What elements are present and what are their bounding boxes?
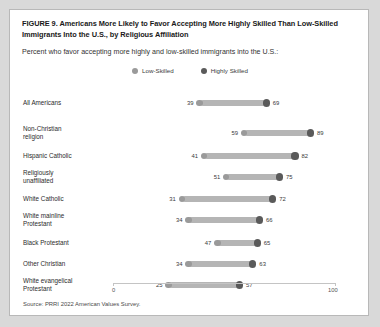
low-skilled-value: 59	[218, 130, 238, 136]
figure-subtitle: Percent who favor accepting more highly …	[22, 47, 358, 57]
low-skilled-dot	[185, 217, 191, 223]
axis-tick	[335, 283, 336, 286]
figure-header: FIGURE 9. Americans More Likely to Favor…	[22, 19, 358, 57]
dumbbell-connector	[182, 196, 273, 201]
figure-card: FIGURE 9. Americans More Likely to Favor…	[9, 9, 369, 316]
dumbbell-connector	[204, 153, 295, 158]
axis-tick-label: 100	[328, 287, 338, 293]
row-label: Hispanic Catholic	[23, 152, 105, 160]
chart-plot-area: All Americans3969Non-Christianreligion59…	[10, 86, 370, 286]
row-label: All Americans	[23, 99, 105, 107]
page-title: FIGURE 9. Americans More Likely to Favor…	[22, 19, 358, 40]
highly-skilled-value: 63	[259, 261, 266, 267]
axis-tick	[113, 283, 114, 286]
row-label: Religiouslyunaffiliated	[23, 169, 105, 184]
axis-tick-label: 0	[112, 287, 115, 293]
highly-skilled-value: 75	[286, 174, 293, 180]
dumbbell-track: 3466	[113, 211, 335, 231]
dumbbell-connector	[226, 174, 279, 179]
highly-skilled-value: 66	[266, 217, 273, 223]
dumbbell-connector	[200, 100, 267, 105]
chart-row: Black Protestant4765	[10, 234, 370, 254]
chart-row: All Americans3969	[10, 94, 370, 114]
x-axis: 0100	[113, 283, 335, 284]
dumbbell-track: 5175	[113, 168, 335, 188]
dumbbell-track: 4182	[113, 147, 335, 167]
chart-row: White Catholic3172	[10, 190, 370, 210]
low-skilled-value: 51	[200, 174, 220, 180]
low-skilled-dot	[196, 100, 202, 106]
dumbbell-track: 3463	[113, 255, 335, 275]
row-label: Black Protestant	[23, 239, 105, 247]
low-skilled-dot	[214, 240, 220, 246]
legend-label: Low-Skilled	[142, 67, 174, 74]
legend-item: Highly Skilled	[201, 67, 248, 74]
highly-skilled-dot	[269, 195, 276, 202]
dumbbell-connector	[188, 217, 259, 222]
highly-skilled-dot	[256, 216, 263, 223]
legend-swatch-dot-icon	[132, 68, 138, 74]
dumbbell-connector	[217, 240, 257, 245]
low-skilled-value: 34	[162, 217, 182, 223]
row-label: White evangelicalProtestant	[23, 277, 105, 292]
low-skilled-dot	[185, 261, 191, 267]
chart-row: Other Christian3463	[10, 255, 370, 275]
highly-skilled-value: 65	[264, 240, 271, 246]
chart-row: White evangelicalProtestant2557	[10, 276, 370, 296]
highly-skilled-value: 69	[273, 100, 280, 106]
legend-label: Highly Skilled	[211, 67, 248, 74]
low-skilled-value: 41	[178, 153, 198, 159]
legend-item: Low-Skilled	[132, 67, 174, 74]
highly-skilled-dot	[254, 239, 261, 246]
chart-row: Non-Christianreligion5989	[10, 124, 370, 144]
row-label: White mainlineProtestant	[23, 212, 105, 227]
dumbbell-track: 3172	[113, 190, 335, 210]
highly-skilled-value: 82	[302, 153, 309, 159]
row-label: White Catholic	[23, 195, 105, 203]
highly-skilled-dot	[276, 173, 283, 180]
highly-skilled-value: 72	[279, 196, 286, 202]
low-skilled-value: 31	[156, 196, 176, 202]
dumbbell-track: 2557	[113, 276, 335, 296]
legend-swatch-dot-icon	[201, 68, 207, 74]
row-label: Non-Christianreligion	[23, 125, 105, 140]
dumbbell-track: 5989	[113, 124, 335, 144]
row-label: Other Christian	[23, 260, 105, 268]
chart-row: White mainlineProtestant3466	[10, 211, 370, 231]
low-skilled-value: 39	[174, 100, 194, 106]
highly-skilled-value: 89	[317, 130, 324, 136]
highly-skilled-dot	[291, 152, 298, 159]
highly-skilled-dot	[249, 260, 256, 267]
chart-row: Religiouslyunaffiliated5175	[10, 168, 370, 188]
chart-legend: Low-SkilledHighly Skilled	[10, 67, 370, 74]
low-skilled-value: 34	[162, 261, 182, 267]
highly-skilled-dot	[263, 99, 270, 106]
dumbbell-connector	[244, 130, 311, 135]
source-note: Source: PRRI 2022 American Values Survey…	[23, 301, 140, 307]
chart-row: Hispanic Catholic4182	[10, 147, 370, 167]
highly-skilled-dot	[307, 129, 314, 136]
low-skilled-value: 47	[191, 240, 211, 246]
dumbbell-track: 4765	[113, 234, 335, 254]
dumbbell-connector	[188, 261, 252, 266]
dumbbell-track: 3969	[113, 94, 335, 114]
